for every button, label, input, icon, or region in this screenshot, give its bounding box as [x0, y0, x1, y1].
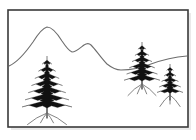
mountain-landscape-scene	[0, 0, 196, 140]
picture-frame	[8, 10, 188, 127]
illustration-canvas	[0, 0, 196, 140]
